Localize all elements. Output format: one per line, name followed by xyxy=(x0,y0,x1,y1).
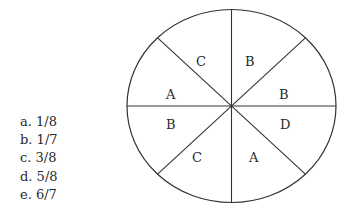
sector-label: D xyxy=(280,117,290,132)
choice-a: a. 1/8 xyxy=(20,113,58,131)
choice-c: c. 3/8 xyxy=(20,149,58,167)
sector-label: A xyxy=(248,150,259,165)
choice-value: 1/7 xyxy=(37,132,58,147)
sector-dividers xyxy=(127,10,336,203)
sector-label: B xyxy=(279,87,289,102)
choice-value: 5/8 xyxy=(37,169,58,184)
choice-letter: c. xyxy=(20,150,31,165)
choice-letter: e. xyxy=(20,187,32,202)
choice-d: d. 5/8 xyxy=(20,168,58,186)
choice-value: 6/7 xyxy=(36,187,57,202)
sector-label: C xyxy=(192,150,202,165)
choice-value: 3/8 xyxy=(36,150,57,165)
choice-b: b. 1/7 xyxy=(20,131,58,149)
choice-letter: a. xyxy=(20,114,32,129)
answer-choices: a. 1/8 b. 1/7 c. 3/8 d. 5/8 e. 6/7 xyxy=(20,113,58,204)
choice-letter: d. xyxy=(20,169,32,184)
choice-value: 1/8 xyxy=(36,114,57,129)
choice-e: e. 6/7 xyxy=(20,186,58,204)
sector-label: B xyxy=(245,54,255,69)
choice-letter: b. xyxy=(20,132,32,147)
sector-label: A xyxy=(165,87,176,102)
sector-label: B xyxy=(166,117,176,132)
sector-label: C xyxy=(196,54,206,69)
